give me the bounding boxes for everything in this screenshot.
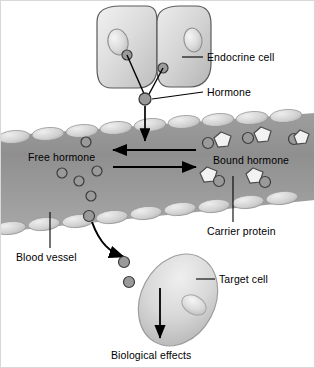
free-hormone [81, 137, 91, 147]
leader-hormone [152, 92, 203, 99]
label-blood-vessel: Blood vessel [16, 252, 77, 263]
diagram-canvas: Endocrine cell Hormone Free hormone Boun… [0, 0, 315, 368]
label-free-hormone: Free hormone [28, 152, 95, 163]
free-hormone [92, 166, 102, 176]
blood-vessel [0, 108, 315, 236]
label-hormone: Hormone [207, 87, 251, 98]
free-hormone [86, 191, 96, 201]
endocrine-cell-right [157, 6, 211, 87]
hormone-in-tissue-2 [124, 277, 135, 288]
hormone-in-tissue-1 [119, 257, 130, 268]
exit-arrow [92, 222, 124, 257]
label-target-cell: Target cell [219, 274, 268, 285]
free-hormone [74, 176, 84, 186]
label-endocrine-cell: Endocrine cell [207, 52, 274, 63]
hormone-icon [260, 177, 271, 188]
target-cell-body [123, 240, 233, 360]
hormone-icon [214, 176, 225, 187]
secreted-hormone [139, 93, 151, 105]
target-cell [123, 240, 233, 360]
free-hormone-exiting [84, 211, 95, 222]
free-hormone [57, 168, 67, 178]
hormone-icon [243, 133, 254, 144]
endocrine-cell-pair [97, 6, 211, 88]
label-bound-hormone: Bound hormone [213, 155, 289, 166]
label-biological-effects: Biological effects [111, 350, 191, 361]
hormone-icon [203, 138, 214, 149]
label-carrier-protein: Carrier protein [207, 226, 276, 237]
